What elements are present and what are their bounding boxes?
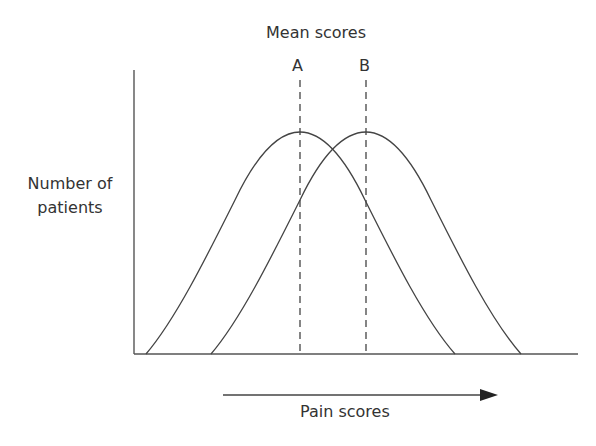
mean-label-b: B [359, 56, 370, 75]
mean-label-a: A [292, 56, 303, 75]
x-axis-label: Pain scores [300, 402, 390, 421]
arrowhead-icon [480, 389, 498, 401]
y-axis-label: Number of patients [18, 172, 122, 220]
y-axis-label-line2: patients [18, 196, 122, 220]
y-axis-label-line1: Number of [18, 172, 122, 196]
chart-title: Mean scores [0, 23, 596, 42]
